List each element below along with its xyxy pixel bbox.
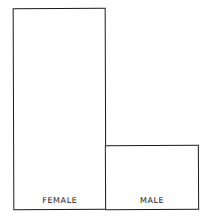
bar-label-female: FEMALE <box>14 196 105 205</box>
bar-male: MALE <box>105 145 199 210</box>
bar-chart: FEMALE MALE <box>0 0 208 223</box>
bar-label-male: MALE <box>106 196 198 205</box>
bar-female: FEMALE <box>13 8 107 210</box>
